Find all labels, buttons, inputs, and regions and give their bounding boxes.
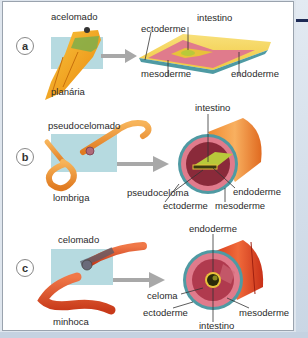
label-endoderme-a: endoderme: [231, 68, 279, 79]
type-label-pseudocelomado: pseudocelomado: [48, 120, 120, 131]
type-label-acelomado: acelomado: [51, 11, 97, 22]
diagram-illustration: [3, 2, 295, 332]
label-celoma-c: celoma: [147, 290, 178, 301]
label-endoderme-b: endoderme: [233, 186, 281, 197]
label-mesoderme-c: mesoderme: [239, 307, 289, 318]
label-intestino-b: intestino: [195, 102, 230, 113]
type-label-celomado: celomado: [58, 234, 99, 245]
label-mesoderme-b: mesoderme: [215, 200, 265, 211]
arrow-c: [113, 272, 165, 288]
page-margin-strip: [296, 0, 308, 338]
organism-label-minhoca: minhoca: [53, 316, 89, 327]
panel-letter-b: b: [16, 148, 34, 166]
label-ectoderme-a: ectoderme: [141, 23, 186, 34]
panel-b-organism: [47, 123, 149, 188]
label-ectoderme-b: ectoderme: [163, 200, 208, 211]
label-pseudoceloma-b: pseudoceloma: [127, 187, 189, 198]
panel-letter-a: a: [16, 37, 34, 55]
label-endoderme-c: endoderme: [189, 223, 237, 234]
page-bottom-strip: [0, 332, 308, 338]
label-ectoderme-c: ectoderme: [143, 307, 188, 318]
diagram-panel: a acelomado planária ectoderme intestino…: [2, 1, 294, 331]
organism-label-planaria: planária: [51, 86, 85, 97]
label-intestino-c: intestino: [199, 320, 234, 331]
page-header-bar: [296, 19, 308, 22]
organism-label-lombriga: lombriga: [53, 192, 89, 203]
label-mesoderme-a: mesoderme: [141, 68, 191, 79]
label-intestino-a: intestino: [197, 12, 232, 23]
arrow-b: [117, 156, 169, 172]
panel-letter-c: c: [16, 259, 34, 277]
arrow-a: [101, 49, 137, 63]
